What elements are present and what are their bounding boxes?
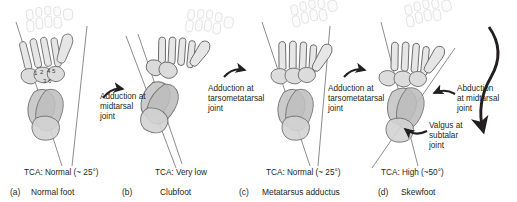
caption-letter-d: (d): [378, 187, 388, 197]
annotation-adduction-tarsometatarsal-d: Adduction at tarsometatarsal joint: [328, 84, 390, 115]
panel-a-normal-foot: [16, 5, 87, 166]
bone-number-3: 3: [43, 78, 46, 84]
caption-name-b: Clubfoot: [160, 187, 191, 197]
tca-label-a: TCA: Normal (~ 25°): [24, 168, 98, 177]
bone-number-1: 1: [34, 70, 37, 76]
bone-number-6: 6: [48, 78, 51, 84]
bone-number-2: 2: [40, 69, 43, 75]
arrow-adduction-tarsometatarsal-c: [224, 69, 245, 77]
annotation-valgus-subtalar: Valgus at subtalar joint: [429, 121, 477, 152]
bone-number-5: 5: [52, 68, 55, 74]
annotation-adduction-midtarsal: Adduction at midtarsal joint: [100, 92, 152, 123]
tca-label-c: TCA: Normal (~ 25°): [266, 168, 340, 177]
arrow-adduction-tarsometatarsal-d: [344, 69, 365, 77]
tca-label-d: TCA: High (~50°): [381, 168, 444, 177]
caption-letter-b: (b): [122, 187, 132, 197]
caption-letter-c: (c): [239, 187, 249, 197]
panel-c-metatarsus-adductus: [262, 0, 339, 166]
bone-number-4: 4: [47, 68, 50, 74]
tca-label-b: TCA: Very low: [155, 168, 207, 177]
caption-letter-a: (a): [10, 187, 20, 197]
arrow-abduction-midtarsal: [434, 91, 455, 94]
caption-name-a: Normal foot: [31, 187, 74, 197]
annotation-adduction-tarsometatarsal-c: Adduction at tarsometatarsal joint: [208, 84, 270, 115]
annotation-abduction-midtarsal: Abduction at midtarsal joint: [457, 84, 515, 115]
caption-name-d: Skewfoot: [401, 187, 435, 197]
caption-name-c: Metatarsus adductus: [262, 187, 340, 197]
